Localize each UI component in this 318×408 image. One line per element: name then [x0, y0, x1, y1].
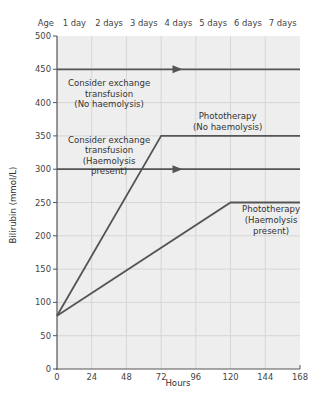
annotation-line: Consider exchange [68, 78, 150, 88]
age-tick-label: 3 days [130, 18, 158, 28]
y-tick-label: 400 [35, 98, 51, 108]
y-tick-label: 250 [35, 198, 51, 208]
annotation-line: (No haemolysis) [74, 99, 144, 109]
y-tick-label: 200 [35, 231, 51, 241]
x-tick-label: 0 [54, 372, 59, 382]
annotation-line: Consider exchange [68, 135, 150, 145]
top-age-axis: Age1 day2 days3 days4 days5 days6 days7 … [38, 18, 297, 28]
y-tick-label: 300 [35, 164, 51, 174]
x-tick-label: 144 [257, 372, 273, 382]
annotation-line: (Haemolysis [83, 156, 136, 166]
y-tick-label: 50 [40, 331, 51, 341]
x-tick-label: 24 [86, 372, 97, 382]
age-tick-label: 7 days [269, 18, 297, 28]
y-tick-labels: 050100150200250300350400450500 [35, 31, 51, 374]
y-tick-label: 150 [35, 264, 51, 274]
age-tick-label: 6 days [234, 18, 262, 28]
annotation-line: Phototherapy [199, 111, 257, 121]
annotation-3: Phototherapy(No haemolysis) [193, 111, 263, 132]
y-tick-label: 500 [35, 31, 51, 41]
annotation-line: (No haemolysis) [193, 122, 263, 132]
annotation-line: transfusion [85, 89, 133, 99]
annotation-line: (Haemolysis [245, 215, 298, 225]
y-tick-label: 100 [35, 297, 51, 307]
bilirubin-chart: 050100150200250300350400450500 024487296… [0, 0, 318, 408]
x-tick-label: 96 [191, 372, 202, 382]
y-tick-label: 0 [46, 364, 51, 374]
x-tick-label: 168 [292, 372, 308, 382]
age-tick-label: 2 days [95, 18, 123, 28]
annotation-line: transfusion [85, 145, 133, 155]
annotation-line: Phototherapy [242, 204, 300, 214]
annotation-line: present) [253, 226, 289, 236]
annotation-line: present) [91, 166, 127, 176]
age-tick-label: 5 days [199, 18, 227, 28]
age-tick-label: 1 day [63, 18, 86, 28]
x-axis-title: Hours [165, 378, 191, 388]
x-tick-label: 120 [223, 372, 239, 382]
age-axis-label: Age [38, 18, 54, 28]
y-axis-title: Bilirubin (mmol/L) [8, 167, 18, 244]
x-tick-label: 48 [121, 372, 132, 382]
y-tick-label: 350 [35, 131, 51, 141]
y-tick-label: 450 [35, 64, 51, 74]
age-tick-label: 4 days [165, 18, 193, 28]
